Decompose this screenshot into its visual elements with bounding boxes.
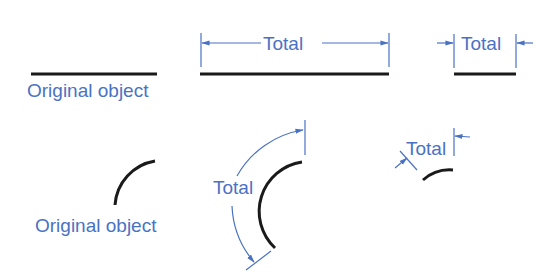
compressed-arc-object bbox=[423, 170, 453, 180]
compressed-line-total-label: Total bbox=[461, 34, 501, 53]
stretched-arc-total-label: Total bbox=[211, 178, 255, 197]
original-arc-label: Original object bbox=[35, 216, 156, 235]
compressed-arc-total-label: Total bbox=[406, 139, 446, 158]
dimension-arrow-right bbox=[455, 136, 470, 137]
extension-line-bottom bbox=[246, 251, 271, 270]
original-arc-object bbox=[115, 161, 155, 205]
dimension-arrow-left bbox=[395, 158, 407, 168]
stretched-arc-object bbox=[259, 162, 302, 248]
stretched-line-total-label: Total bbox=[261, 34, 305, 53]
dimension-arc-upper bbox=[237, 130, 303, 176]
original-line-label: Original object bbox=[27, 81, 148, 100]
dimension-arc-lower bbox=[232, 206, 254, 262]
